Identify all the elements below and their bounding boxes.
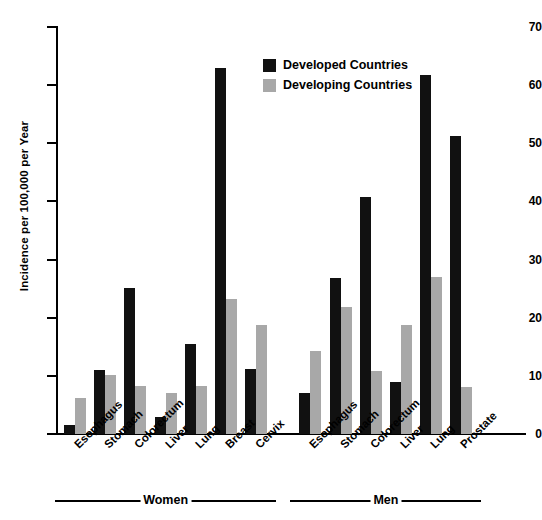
bar xyxy=(64,425,75,434)
legend-item: Developing Countries xyxy=(263,78,412,92)
bar xyxy=(215,68,226,434)
bar xyxy=(185,344,196,434)
bar xyxy=(431,277,442,434)
y-axis-tick xyxy=(47,433,56,435)
bar xyxy=(256,325,267,434)
group-label: Women xyxy=(140,493,191,507)
bar xyxy=(310,351,321,434)
group-label: Men xyxy=(370,493,401,507)
y-axis-tick xyxy=(47,259,56,261)
bar xyxy=(360,197,371,434)
legend-swatch-icon xyxy=(263,79,276,92)
y-axis-tick xyxy=(47,26,56,28)
legend-label: Developed Countries xyxy=(283,58,408,72)
bar xyxy=(299,393,310,434)
bar xyxy=(196,386,207,434)
y-axis-title: Incidence per 100,000 per Year xyxy=(18,96,30,316)
bar-chart: Incidence per 100,000 per Year 010203040… xyxy=(0,0,542,520)
legend-label: Developing Countries xyxy=(283,78,412,92)
chart-legend: Developed CountriesDeveloping Countries xyxy=(263,58,412,98)
y-axis-tick xyxy=(47,142,56,144)
bar xyxy=(461,387,472,434)
bar xyxy=(420,75,431,434)
y-axis-tick xyxy=(47,375,56,377)
group-bracket-women: Women xyxy=(55,493,276,507)
bar xyxy=(226,299,237,434)
bar xyxy=(371,371,382,434)
legend-item: Developed Countries xyxy=(263,58,412,72)
bar xyxy=(450,136,461,434)
group-bracket-men: Men xyxy=(290,493,481,507)
legend-swatch-icon xyxy=(263,59,276,72)
y-axis-tick xyxy=(47,84,56,86)
y-axis-tick xyxy=(47,317,56,319)
y-axis-tick xyxy=(47,200,56,202)
